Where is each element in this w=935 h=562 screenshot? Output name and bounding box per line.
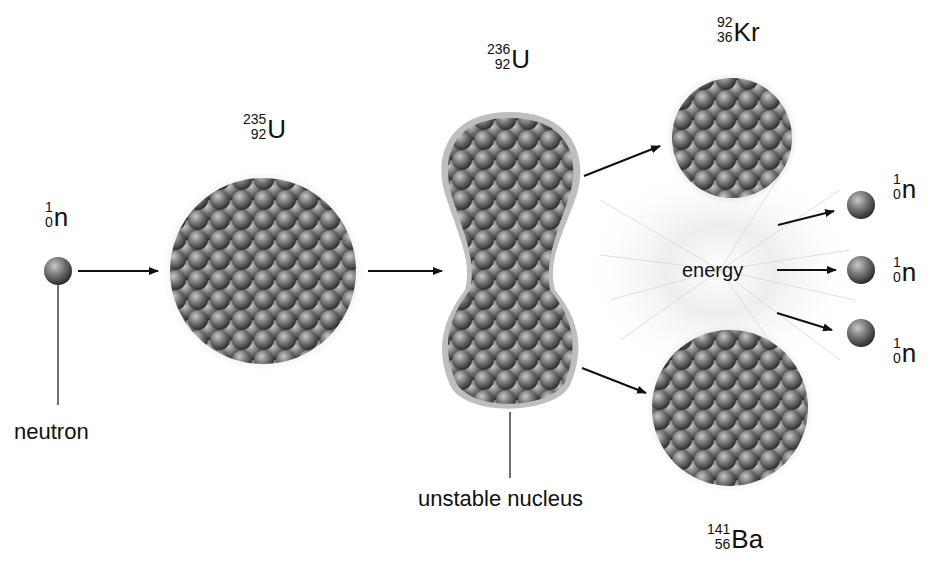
fission-diagram xyxy=(0,0,935,562)
arrow-to-kr92 xyxy=(584,146,660,176)
nuclide-kr92: 9236Kr xyxy=(717,15,760,45)
label-unstable-nucleus: unstable nucleus xyxy=(418,488,583,510)
u236-unstable-nucleus xyxy=(441,112,580,478)
nuclide-u235: 23592U xyxy=(243,112,286,142)
nuclide-neutron-in: 10n xyxy=(45,200,68,230)
label-energy: energy xyxy=(682,260,743,280)
incoming-neutron xyxy=(44,257,72,405)
nuclide-ba141: 14156Ba xyxy=(707,522,763,552)
outgoing-neutron-3 xyxy=(847,319,875,347)
u235-nucleus xyxy=(163,171,363,371)
nuclide-neutron-out-3: 10n xyxy=(893,336,916,366)
nuclide-neutron-out-2: 10n xyxy=(893,255,916,285)
outgoing-neutron-1 xyxy=(847,191,875,219)
outgoing-neutron-2 xyxy=(847,256,875,284)
nuclide-neutron-out-1: 10n xyxy=(893,172,916,202)
kr92-nucleus xyxy=(666,72,798,204)
label-neutron: neutron xyxy=(14,421,89,443)
nuclide-u236: 23692U xyxy=(487,42,530,72)
ba141-nucleus xyxy=(646,324,814,492)
arrow-to-ba141 xyxy=(582,368,646,393)
